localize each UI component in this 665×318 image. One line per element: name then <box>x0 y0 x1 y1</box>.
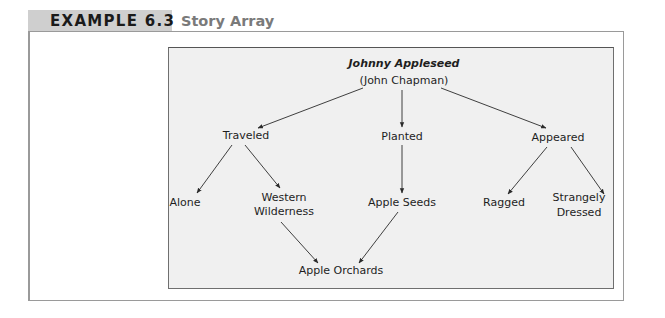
edge-western-orchards <box>281 222 318 263</box>
edge-traveled-alone <box>197 145 232 193</box>
edge-traveled-western <box>245 145 280 188</box>
node-appeared: Appeared <box>531 131 584 145</box>
node-root-name: Johnny Appleseed <box>349 57 460 71</box>
node-western-line2: Wilderness <box>254 205 314 219</box>
node-strangely-line2: Dressed <box>557 206 602 220</box>
edge-root-appeared <box>441 88 546 128</box>
edge-root-traveled <box>258 88 363 128</box>
node-western-line1: Western <box>261 191 306 205</box>
node-root-alias: (John Chapman) <box>360 74 449 88</box>
node-apple-seeds: Apple Seeds <box>368 196 436 210</box>
node-planted: Planted <box>381 130 422 144</box>
node-ragged: Ragged <box>483 196 525 210</box>
edge-appeared-strangely <box>571 147 604 194</box>
edge-appeared-ragged <box>508 147 547 194</box>
edge-seeds-orchards <box>359 212 398 263</box>
node-strangely-line1: Strangely <box>553 191 606 205</box>
node-alone: Alone <box>169 196 200 210</box>
node-traveled: Traveled <box>223 129 269 143</box>
node-apple-orchards: Apple Orchards <box>299 264 384 278</box>
